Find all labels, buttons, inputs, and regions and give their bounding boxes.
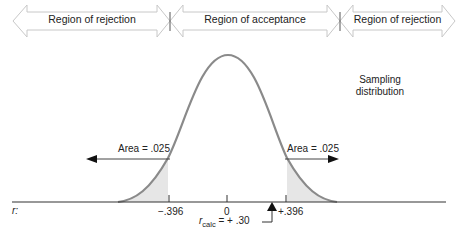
- right-tail-shade: [287, 158, 337, 202]
- tick-label-neg-396: −.396: [158, 206, 183, 217]
- diagram-canvas: [0, 0, 458, 241]
- r-calc-label: rcalc = + .30: [199, 215, 250, 229]
- curve-label-line1: Sampling: [340, 74, 420, 86]
- r-calc-leader-line: [262, 211, 272, 222]
- region-label-left: Region of rejection: [27, 13, 157, 25]
- left-area-label: Area = .025: [118, 143, 170, 154]
- curve-label-line2: distribution: [340, 86, 420, 98]
- r-calc-value: = + .30: [218, 215, 249, 226]
- tick-label-pos-396: +.396: [278, 206, 303, 217]
- region-label-center: Region of acceptance: [183, 13, 327, 25]
- left-tail-shade: [118, 158, 168, 202]
- left-area-arrowhead-icon: [86, 155, 97, 163]
- r-calc-marker-icon: [267, 202, 277, 211]
- r-calc-subscript: calc: [202, 220, 215, 229]
- sampling-distribution-curve: [118, 55, 337, 202]
- right-area-label: Area = .025: [287, 143, 339, 154]
- axis-variable-label: r:: [12, 205, 18, 216]
- curve-label: Sampling distribution: [340, 74, 420, 98]
- right-area-arrowhead-icon: [328, 155, 339, 163]
- region-label-right: Region of rejection: [353, 13, 442, 25]
